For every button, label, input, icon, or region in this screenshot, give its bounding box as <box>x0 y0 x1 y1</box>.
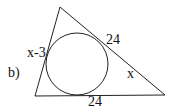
problem-label: b) <box>8 65 20 81</box>
upper-right-side-label: 24 <box>106 32 120 47</box>
lower-right-side-label: x <box>127 66 134 81</box>
bottom-side-label: 24 <box>88 94 102 109</box>
triangle-incircle-diagram: b) x-3 24 x 24 <box>0 0 174 109</box>
incircle <box>46 33 108 95</box>
left-side-label: x-3 <box>27 45 46 60</box>
triangle <box>35 7 165 96</box>
